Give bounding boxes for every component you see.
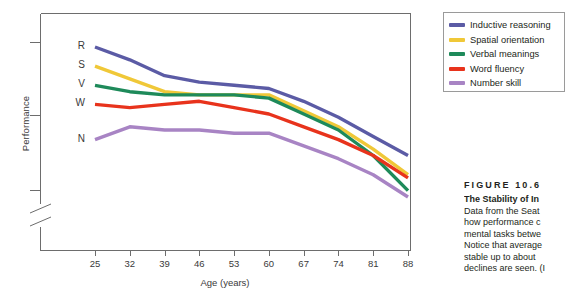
- series-letter-N: N: [71, 133, 85, 144]
- caption-line: declines are seen. (I: [464, 263, 565, 274]
- caption-figure-number: FIGURE 10.6: [464, 180, 565, 190]
- legend-item[interactable]: Inductive reasoning: [449, 18, 564, 33]
- legend-label: Number skill: [470, 78, 521, 88]
- x-tick-label-60: 60: [257, 258, 281, 269]
- x-tick-label-74: 74: [326, 258, 350, 269]
- caption-line: how performance c: [464, 217, 565, 228]
- x-tick-label-32: 32: [118, 258, 142, 269]
- figure-caption: FIGURE 10.6 The Stability of In Data fro…: [464, 180, 565, 274]
- series-line-number-skill: [95, 127, 408, 197]
- chart-plot-area: Performance Age (years) 2532394653606774…: [0, 0, 420, 302]
- series-letter-W: W: [71, 97, 85, 108]
- legend-label: Verbal meanings: [470, 49, 539, 59]
- legend-swatch-icon: [449, 52, 465, 56]
- axis-break-slash-1: [30, 204, 51, 213]
- x-tick-label-39: 39: [153, 258, 177, 269]
- legend-item[interactable]: Spatial orientation: [449, 33, 564, 48]
- y-axis-label: Performance: [20, 69, 31, 179]
- series-line-inductive-reasoning: [95, 47, 408, 156]
- x-tick-label-46: 46: [187, 258, 211, 269]
- legend-label: Word fluency: [470, 64, 524, 74]
- series-line-verbal-meanings: [95, 85, 408, 190]
- x-tick-label-88: 88: [396, 258, 420, 269]
- series-letter-V: V: [71, 78, 85, 89]
- legend-label: Spatial orientation: [470, 35, 544, 45]
- series-letter-R: R: [71, 40, 85, 51]
- figure-root: Performance Age (years) 2532394653606774…: [0, 0, 565, 302]
- legend-item[interactable]: Number skill: [449, 76, 564, 91]
- caption-line: mental tasks betwe: [464, 229, 565, 240]
- x-tick-label-53: 53: [222, 258, 246, 269]
- caption-title: The Stability of In: [464, 194, 565, 204]
- line-chart-svg: [0, 0, 420, 302]
- x-tick-label-67: 67: [292, 258, 316, 269]
- axis-break-slash-2: [30, 217, 51, 226]
- caption-body: Data from the Seathow performance cmenta…: [464, 206, 565, 274]
- caption-line: stable up to about: [464, 252, 565, 263]
- caption-line: Notice that average: [464, 240, 565, 251]
- legend-item[interactable]: Verbal meanings: [449, 47, 564, 62]
- legend-item[interactable]: Word fluency: [449, 62, 564, 77]
- legend-label: Inductive reasoning: [470, 20, 551, 30]
- caption-line: Data from the Seat: [464, 206, 565, 217]
- series-line-spatial-orientation: [95, 66, 408, 175]
- legend-swatch-icon: [449, 67, 465, 71]
- legend-swatch-icon: [449, 23, 465, 27]
- series-letter-S: S: [71, 59, 85, 70]
- legend-swatch-icon: [449, 81, 465, 85]
- x-axis-label: Age (years): [40, 277, 410, 288]
- chart-legend: Inductive reasoningSpatial orientationVe…: [443, 12, 565, 92]
- x-tick-label-25: 25: [83, 258, 107, 269]
- legend-swatch-icon: [449, 38, 465, 42]
- x-tick-label-81: 81: [361, 258, 385, 269]
